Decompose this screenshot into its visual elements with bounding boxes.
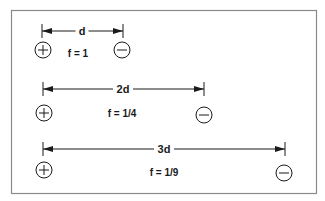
negative-charge-icon — [114, 42, 130, 58]
distance-row-3: 3df = 1/9 — [36, 142, 292, 181]
positive-charge-icon — [35, 42, 51, 58]
negative-charge-icon — [196, 107, 212, 123]
distance-label: d — [79, 25, 86, 37]
distance-row-2: 2df = 1/4 — [36, 82, 212, 123]
inverse-square-diagram: df = 12df = 1/43df = 1/9 — [0, 0, 325, 201]
distance-row-1: df = 1 — [35, 24, 130, 59]
positive-charge-icon — [36, 162, 52, 178]
force-label: f = 1/9 — [150, 167, 179, 178]
distance-label: 3d — [158, 143, 171, 155]
positive-charge-icon — [36, 105, 52, 121]
negative-charge-icon — [276, 165, 292, 181]
force-label: f = 1 — [68, 48, 89, 59]
distance-label: 2d — [117, 83, 130, 95]
force-label: f = 1/4 — [108, 108, 137, 119]
